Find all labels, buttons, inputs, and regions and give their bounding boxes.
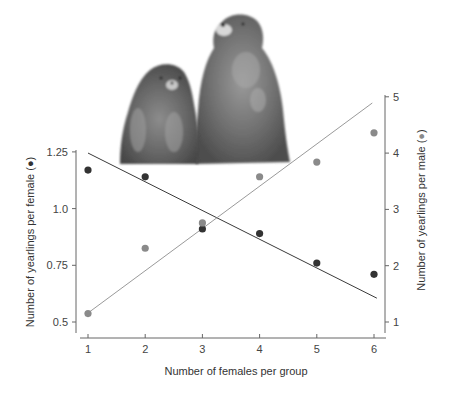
right-y-tick-label: 1 — [393, 316, 399, 328]
right-y-tick-label: 5 — [393, 91, 399, 103]
female-data-point — [370, 271, 377, 278]
right-y-tick-label: 3 — [393, 203, 399, 215]
x-tick-label: 4 — [257, 343, 263, 355]
x-axis-title: Number of females per group — [164, 365, 307, 377]
series-marker-icon: ● — [415, 133, 427, 140]
left-y-axis: 0.50.751.01.25 — [47, 146, 76, 333]
left-y-tick-label: 0.5 — [53, 316, 68, 328]
left-y-tick-label: 0.75 — [47, 259, 68, 271]
left-y-axis-title: Number of yearlings per female (●) — [24, 157, 36, 328]
male-data-point — [142, 245, 149, 252]
left-y-tick-label: 1.0 — [53, 203, 68, 215]
male-data-point — [313, 159, 320, 166]
x-tick-label: 2 — [142, 343, 148, 355]
female-data-point — [313, 259, 320, 266]
male-data-point — [370, 129, 377, 136]
female-data-point — [256, 230, 263, 237]
marmot-sitting — [120, 64, 199, 164]
x-tick-label: 5 — [314, 343, 320, 355]
marmot-standing — [195, 15, 290, 165]
marmot-illustration — [120, 15, 290, 165]
x-tick-label: 1 — [85, 343, 91, 355]
x-tick-label: 6 — [371, 343, 377, 355]
right-y-tick-label: 4 — [393, 147, 399, 159]
male-data-point — [84, 310, 91, 317]
right-y-axis: 12345 — [385, 91, 399, 333]
male-data-point — [199, 219, 206, 226]
female-trendline — [88, 153, 377, 298]
female-data-point — [84, 166, 91, 173]
left-y-tick-label: 1.25 — [47, 146, 68, 158]
female-data-point — [142, 173, 149, 180]
male-data-point — [256, 173, 263, 180]
chart: 0.50.751.01.25 12345 123456 Number of fe… — [0, 0, 452, 395]
right-y-axis-title: Number of yearlings per male (●) — [415, 129, 427, 290]
right-y-tick-label: 2 — [393, 260, 399, 272]
series-marker-icon: ● — [24, 160, 36, 167]
x-axis: 123456 — [80, 334, 386, 355]
x-tick-label: 3 — [199, 343, 205, 355]
